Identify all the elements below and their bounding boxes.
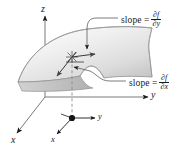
annotation-slope-dfdy: slope = ∂f ∂y: [121, 11, 161, 29]
z-axis-label: z: [41, 4, 45, 14]
fraction-numerator-dfdx: ∂f: [160, 74, 168, 82]
slope-word-dfdy: slope: [121, 15, 142, 25]
x-axis-label: x: [11, 135, 15, 145]
equals-sign-dfdx: =: [152, 78, 157, 88]
local-y-axis-label: y: [98, 112, 102, 121]
fraction-dfdx: ∂f ∂x: [159, 74, 169, 92]
local-x-axis-label: x: [51, 135, 55, 144]
equals-sign-dfdy: =: [144, 15, 149, 25]
x-axis: [17, 97, 45, 133]
fraction-dfdy: ∂f ∂y: [151, 11, 161, 29]
base-point-group: [57, 113, 95, 134]
fraction-denominator-dfdx: ∂x: [159, 83, 169, 91]
partial-derivative-diagram: z y x y x slope = ∂f ∂y slope = ∂f ∂x: [0, 0, 196, 154]
fraction-denominator-dfdy: ∂y: [151, 20, 161, 28]
slope-word-dfdx: slope: [129, 78, 150, 88]
fraction-numerator-dfdy: ∂f: [152, 11, 160, 19]
local-x-axis: [57, 118, 72, 134]
annotation-slope-dfdx: slope = ∂f ∂x: [129, 74, 169, 92]
